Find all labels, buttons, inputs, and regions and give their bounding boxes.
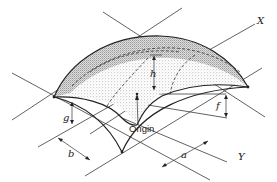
label-y-axis: Y xyxy=(238,151,246,162)
label-g: g xyxy=(63,112,69,123)
label-x-axis: X xyxy=(256,15,265,26)
dimension-b: b xyxy=(58,138,90,160)
label-a: a xyxy=(181,149,187,160)
dimension-g: g xyxy=(63,102,74,124)
label-origin: Origin xyxy=(129,123,154,134)
label-h: h xyxy=(150,68,156,79)
dimension-f: f xyxy=(215,95,228,117)
shell-diagram: h f g b a Origin X Y xyxy=(0,0,277,182)
label-f: f xyxy=(215,100,222,111)
corner-left xyxy=(53,96,56,99)
corner-front xyxy=(121,151,124,154)
corner-right xyxy=(247,86,250,89)
label-b: b xyxy=(68,148,74,159)
dimension-a: a xyxy=(162,141,208,167)
